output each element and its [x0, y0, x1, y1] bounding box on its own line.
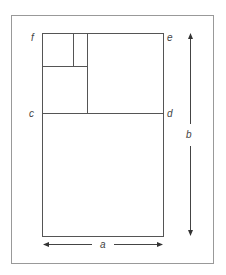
outer-frame	[12, 16, 214, 264]
label-c: c	[29, 108, 34, 119]
label-b: b	[186, 129, 192, 140]
label-d: d	[167, 108, 173, 119]
label-a: a	[100, 239, 106, 250]
label-e: e	[167, 32, 173, 43]
golden-rectangle-diagram: f e c d a b	[0, 0, 226, 275]
main-rectangle	[43, 34, 164, 237]
label-f: f	[31, 32, 35, 43]
